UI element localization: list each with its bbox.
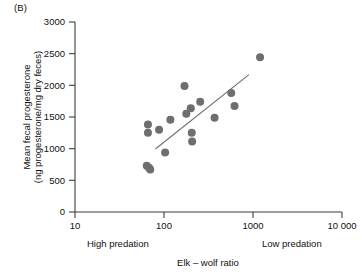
data-point	[155, 126, 163, 134]
y-tick-label: 500	[49, 175, 65, 186]
data-point	[188, 137, 196, 145]
y-tick-label: 0	[60, 206, 65, 217]
x-axis-title: Elk – wolf ratio	[177, 257, 239, 268]
data-point	[166, 116, 174, 124]
axes	[75, 22, 342, 212]
data-point	[146, 166, 154, 174]
y-tick-label: 1000	[44, 143, 65, 154]
y-tick-label: 2000	[44, 80, 65, 91]
y-axis-title-line2: (ng progesterone/mg dry feces)	[32, 51, 43, 184]
x-axis-ticks: 10100100010 000	[70, 212, 357, 231]
annotation-high-predation: High predation	[87, 238, 149, 249]
data-point	[144, 121, 152, 129]
x-tick-label: 10	[70, 220, 81, 231]
data-point	[227, 89, 235, 97]
x-tick-label: 1000	[242, 220, 263, 231]
annotation-low-predation: Low predation	[262, 238, 322, 249]
data-points	[143, 53, 264, 173]
data-point	[256, 53, 264, 61]
data-point	[188, 129, 196, 137]
y-axis-ticks: 050010001500200025003000	[44, 16, 75, 217]
y-tick-label: 3000	[44, 16, 65, 27]
data-point	[181, 82, 189, 90]
trend-line	[155, 75, 249, 149]
data-point	[161, 148, 169, 156]
data-point	[187, 104, 195, 112]
trend-line-segment	[155, 75, 249, 149]
y-tick-label: 1500	[44, 111, 65, 122]
y-axis-title: Mean fecal progesterone (ng progesterone…	[21, 51, 43, 184]
scatter-plot: 050010001500200025003000 10100100010 000…	[0, 0, 362, 272]
data-point	[231, 102, 239, 110]
data-point	[144, 129, 152, 137]
y-tick-label: 2500	[44, 48, 65, 59]
x-tick-label: 10 000	[327, 220, 356, 231]
data-point	[196, 98, 204, 106]
data-point	[211, 114, 219, 122]
y-axis-title-line1: Mean fecal progesterone	[21, 64, 32, 169]
x-tick-label: 100	[156, 220, 172, 231]
figure-panel-b: (B) 050010001500200025003000 10100100010…	[0, 0, 362, 272]
